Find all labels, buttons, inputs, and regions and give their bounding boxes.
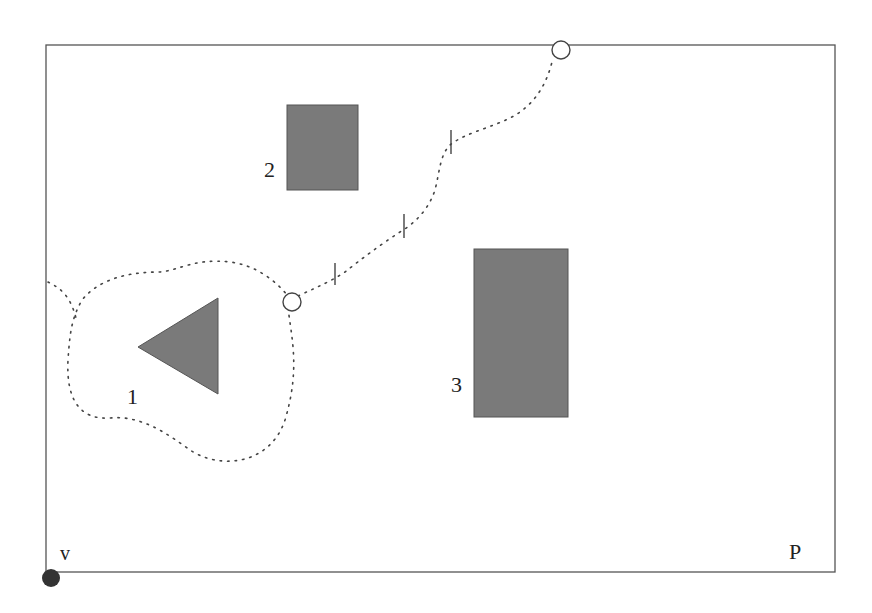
waypoint-circle-top [552,41,570,59]
region-boundary [46,45,835,572]
dotted-branch-left [48,282,76,318]
obstacle-2-label: 2 [264,157,275,182]
region-label: P [789,539,801,564]
start-point-dot [42,569,60,587]
obstacle-1-label: 1 [127,384,138,409]
obstacle-2-rect [287,105,358,190]
waypoint-circle-mid [283,293,301,311]
start-point-label: v [60,542,70,564]
diagram-canvas: 1 2 3 v P [0,0,872,613]
obstacle-3-label: 3 [451,372,462,397]
obstacle-1-triangle [138,298,218,394]
obstacle-3-rect [474,249,568,417]
